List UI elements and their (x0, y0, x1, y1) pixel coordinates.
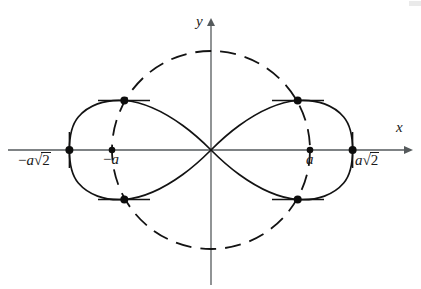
point-min-lower-right (294, 196, 302, 204)
axis-label-a: a (306, 152, 314, 167)
radicand-value: 2 (370, 152, 380, 168)
axis-label-a-sqrt2: a√2 (355, 152, 379, 168)
variable-a: a (111, 151, 119, 167)
point-max-upper-left (120, 97, 128, 105)
x-axis-label: x (396, 120, 403, 135)
variable-a: a (355, 152, 363, 168)
y-axis-arrowhead (207, 18, 215, 26)
figure-canvas (0, 0, 421, 289)
variable-a: a (26, 152, 34, 168)
point-max-upper-right (294, 97, 302, 105)
x-axis-arrowhead (404, 146, 413, 154)
variable-a: a (306, 151, 314, 167)
scan-artifact (409, 1, 421, 6)
axis-label-neg-a: −a (103, 152, 119, 167)
lemniscate-figure: −a√2 −a a a√2 x y (0, 0, 421, 289)
point-min-lower-left (120, 196, 128, 204)
y-axis-label: y (196, 14, 203, 29)
radicand-value: 2 (41, 152, 51, 168)
axis-label-neg-a-sqrt2: −a√2 (18, 152, 51, 168)
point-vertex-left (65, 146, 73, 154)
